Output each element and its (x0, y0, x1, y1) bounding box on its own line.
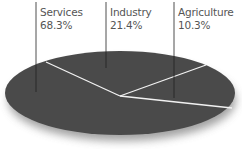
label-industry-value: 21.4% (110, 19, 152, 32)
pie-body (5, 51, 235, 135)
label-agriculture: Agriculture 10.3% (178, 6, 234, 32)
label-services-value: 68.3% (40, 19, 83, 32)
label-services-name: Services (40, 6, 83, 19)
label-agriculture-value: 10.3% (178, 19, 234, 32)
label-services: Services 68.3% (40, 6, 83, 32)
label-industry: Industry 21.4% (110, 6, 152, 32)
label-industry-name: Industry (110, 6, 152, 19)
label-agriculture-name: Agriculture (178, 6, 234, 19)
